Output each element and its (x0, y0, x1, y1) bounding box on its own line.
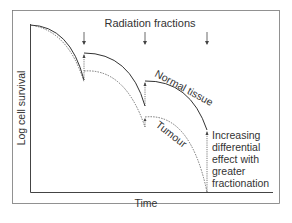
x-axis-label: Time (135, 197, 158, 209)
recovery-arrows (84, 55, 207, 192)
y-axis-label: Log cell survival (15, 71, 27, 146)
svg-text:effect with: effect with (212, 153, 259, 165)
differential-effect-annotation: Increasing differential effect with grea… (212, 129, 269, 189)
svg-text:Increasing: Increasing (212, 129, 261, 141)
fraction-arrow-2 (143, 32, 147, 45)
fractionation-diagram: Radiation fractions Normal tissue (0, 0, 292, 223)
svg-text:differential: differential (212, 141, 260, 153)
svg-text:greater: greater (212, 165, 246, 177)
normal-tissue-label: Normal tissue (153, 67, 215, 108)
diagram-title: Radiation fractions (104, 17, 196, 29)
normal-tissue-curve (30, 25, 207, 130)
svg-text:fractionation: fractionation (212, 177, 269, 189)
tumour-curve (30, 25, 207, 192)
fraction-arrow-3 (205, 32, 209, 45)
fraction-arrow-1 (82, 32, 86, 45)
